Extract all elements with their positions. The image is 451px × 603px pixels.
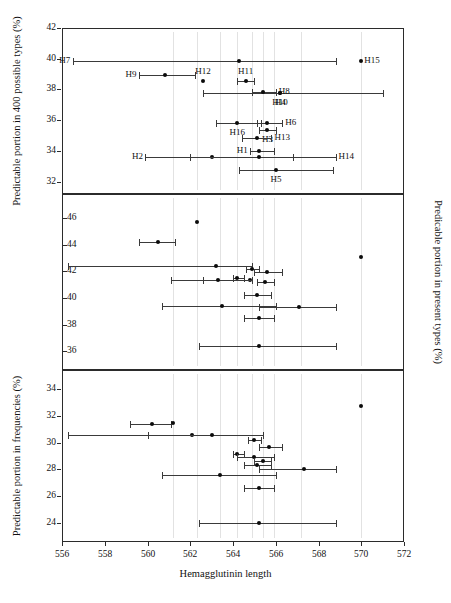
error-bar-cap [274, 454, 275, 461]
error-bar-cap [199, 520, 200, 527]
error-bar-cap [248, 437, 249, 444]
y-axis-tick-label: 42 [30, 22, 56, 32]
data-point [163, 73, 167, 77]
x-axis-tick [148, 542, 149, 546]
data-point-label: H5 [271, 175, 282, 184]
error-bar-cap [199, 343, 200, 350]
data-point-label: H8 [279, 87, 290, 96]
error-bar-cap [203, 90, 204, 97]
background-guide-line [220, 198, 221, 366]
y-axis-tick [57, 120, 61, 121]
x-axis-tick-label: 560 [135, 549, 161, 559]
error-bar-cap [383, 90, 384, 97]
data-point [274, 168, 278, 172]
data-point-label: H7 [59, 56, 70, 65]
y-axis-tick [57, 443, 61, 444]
x-axis-tick-label: 566 [263, 549, 289, 559]
chart-figure: Predictable portion in 400 possible type… [0, 0, 451, 603]
data-point [302, 467, 306, 471]
error-bar-cap [271, 462, 272, 469]
x-axis-tick [404, 542, 405, 546]
data-point-label: H11 [238, 67, 253, 76]
error-bar-cap [336, 58, 337, 65]
y-axis-tick [57, 28, 61, 29]
error-bar-cap [171, 277, 172, 284]
y-axis-tick-label: 36 [67, 345, 77, 355]
y-axis-tick-label: 44 [67, 239, 77, 249]
y-axis-tick [57, 89, 61, 90]
error-bar-cap [271, 292, 272, 299]
error-bar-cap [68, 263, 69, 270]
data-point-label: H9 [126, 70, 137, 79]
error-bar-cap [237, 78, 238, 85]
y-axis-tick-label: 36 [30, 114, 56, 124]
x-axis-tick-label: 562 [177, 549, 203, 559]
y-axis-tick [57, 389, 61, 390]
background-guide-line [220, 374, 221, 538]
y-axis-tick [57, 182, 61, 183]
data-point [210, 433, 214, 437]
data-point [195, 220, 199, 224]
y-axis-tick [57, 496, 61, 497]
error-bar-cap [190, 154, 191, 161]
background-guide-line [301, 198, 302, 366]
error-bar-cap [139, 239, 140, 246]
error-bar-cap [336, 520, 337, 527]
plot-panel-middle [62, 194, 404, 370]
y-axis-title-middle-panel: Predicable portion in present types (%) [433, 200, 444, 364]
background-guide-line [197, 374, 198, 538]
y-axis-tick-label: 38 [30, 83, 56, 93]
data-point-label: H14 [339, 152, 355, 161]
data-point [255, 136, 259, 140]
error-bar-cap [139, 72, 140, 79]
y-axis-tick [57, 469, 61, 470]
y-axis-tick-label: 30 [30, 437, 56, 447]
x-axis-tick [276, 542, 277, 546]
background-guide-line [361, 32, 362, 190]
background-guide-line [361, 198, 362, 366]
error-bar-cap [274, 279, 275, 286]
error-bar-cap [271, 135, 272, 142]
error-bar-cap [233, 451, 234, 458]
data-point [244, 79, 248, 83]
x-axis-tick-label: 568 [306, 549, 332, 559]
plot-panel-top [62, 28, 404, 194]
background-guide-line [220, 32, 221, 190]
y-axis-tick-label: 26 [30, 490, 56, 500]
error-bar-cap [68, 432, 69, 439]
error-bar-cap [333, 167, 334, 174]
error-bar-cap [130, 421, 131, 428]
error-bar-cap [244, 485, 245, 492]
x-axis-title: Hemagglutinin length [0, 568, 451, 579]
error-bar-cap [237, 454, 238, 461]
data-point [214, 264, 218, 268]
data-point [255, 293, 259, 297]
error-bar-cap [216, 120, 217, 127]
error-bar-cap [162, 472, 163, 479]
error-bar-cap [244, 315, 245, 322]
error-bar [259, 469, 336, 470]
x-axis-tick [190, 542, 191, 546]
x-axis-tick [105, 542, 106, 546]
x-axis-tick-label: 556 [49, 549, 75, 559]
data-point [257, 486, 261, 490]
error-bar-cap [244, 462, 245, 469]
x-axis-tick [62, 542, 63, 546]
data-point [257, 155, 261, 159]
error-bar [190, 157, 335, 158]
error-bar [199, 523, 336, 524]
error-bar-cap [252, 89, 253, 96]
error-bar-cap [254, 78, 255, 85]
data-point [257, 521, 261, 525]
y-axis-tick-label: 34 [30, 145, 56, 155]
error-bar [68, 266, 252, 267]
background-guide-line [173, 32, 174, 190]
x-axis-tick [361, 542, 362, 546]
data-point-label: H16 [229, 128, 245, 137]
error-bar [139, 75, 195, 76]
background-guide-line [173, 374, 174, 538]
y-axis-tick-label: 24 [30, 517, 56, 527]
data-point [255, 463, 259, 467]
y-axis-tick-label: 40 [67, 292, 77, 302]
error-bar-cap [175, 239, 176, 246]
